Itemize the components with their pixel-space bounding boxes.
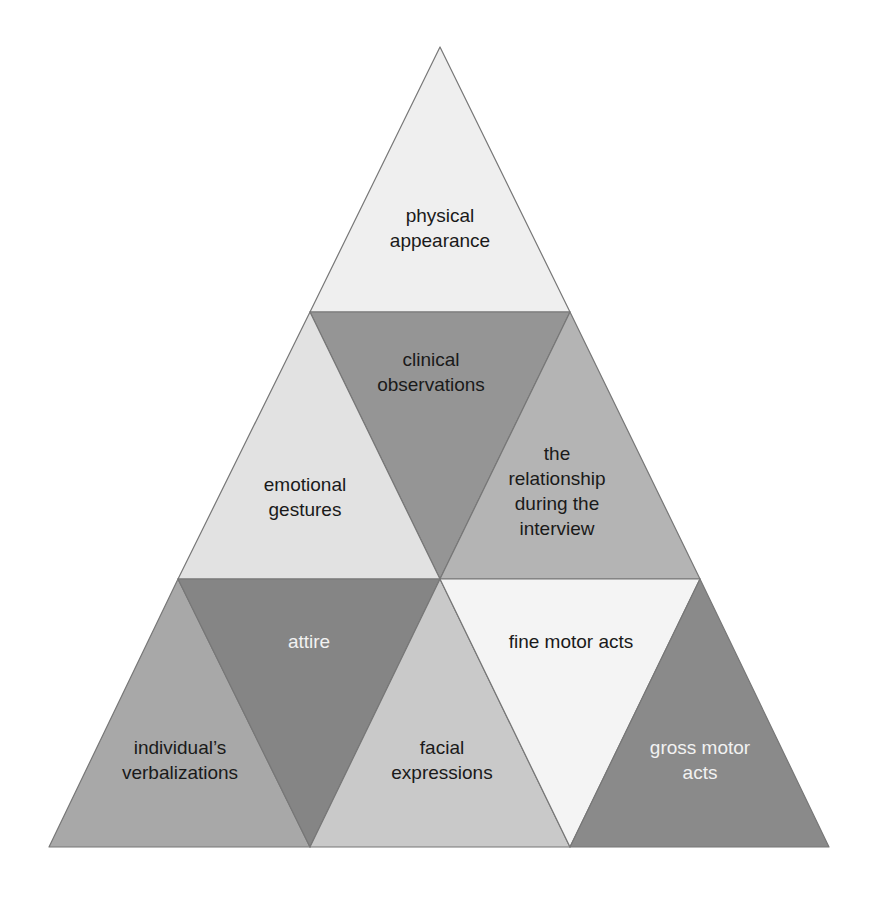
segment-physical-appearance: [310, 47, 570, 312]
label-physical-appearance: physicalappearance: [390, 203, 490, 253]
label-emotional-gestures: emotionalgestures: [264, 472, 346, 522]
label-individuals-verbalizations: individual’sverbalizations: [122, 735, 238, 785]
label-clinical-observations: clinicalobservations: [377, 347, 485, 397]
label-facial-expressions: facialexpressions: [391, 735, 492, 785]
label-fine-motor-acts: fine motor acts: [509, 629, 634, 654]
label-gross-motor-acts: gross motoracts: [650, 735, 750, 785]
label-attire: attire: [288, 629, 330, 654]
triangle-segments: [49, 47, 829, 847]
label-relationship-during-interview: therelationshipduring theinterview: [508, 441, 605, 541]
